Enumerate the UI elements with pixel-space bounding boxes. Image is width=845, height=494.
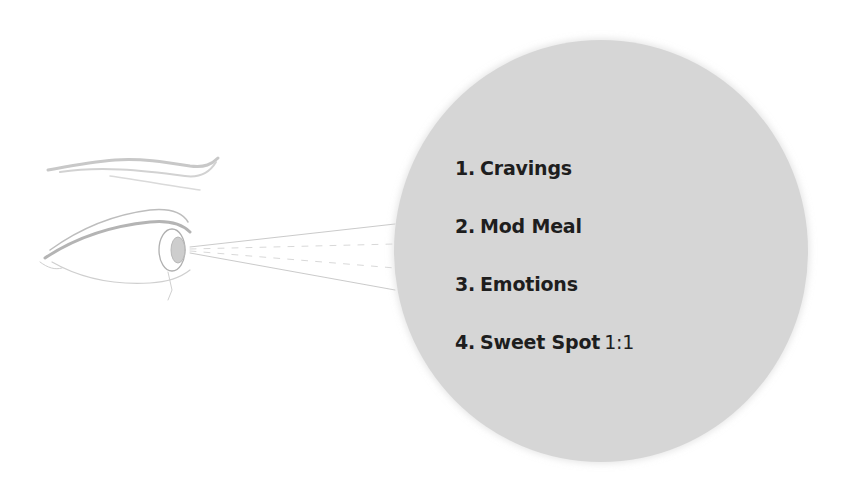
item-number: 1. — [455, 157, 475, 179]
item-label: Emotions — [480, 273, 578, 295]
item-label: Sweet Spot — [480, 331, 600, 353]
list-item: 3.Emotions — [455, 273, 634, 331]
steps-list: 1.Cravings 2.Mod Meal 3.Emotions 4.Sweet… — [455, 157, 634, 389]
list-item: 4.Sweet Spot1:1 — [455, 331, 634, 389]
eyebrow-sketch — [48, 158, 218, 170]
gaze-lines — [190, 224, 395, 290]
item-number: 3. — [455, 273, 475, 295]
item-number: 4. — [455, 331, 475, 353]
list-item: 2.Mod Meal — [455, 215, 634, 273]
item-label: Cravings — [480, 157, 572, 179]
item-ratio: 1:1 — [604, 331, 634, 353]
item-number: 2. — [455, 215, 475, 237]
item-label: Mod Meal — [480, 215, 582, 237]
list-item: 1.Cravings — [455, 157, 634, 215]
